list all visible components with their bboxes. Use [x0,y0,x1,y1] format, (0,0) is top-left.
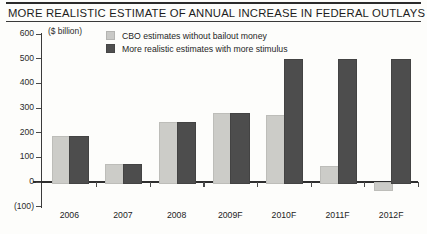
x-axis-label-2012F: 2012F [361,210,421,220]
x-axis-label-2006: 2006 [39,210,99,220]
chart-plot-area: ($ billion) (100)0100200300400500600 CBO… [0,0,427,234]
x-axis-tick [257,182,258,187]
x-axis-tick [203,182,204,187]
chart-page: MORE REALISTIC ESTIMATE OF ANNUAL INCREA… [0,0,427,234]
bar-2008-realistic [177,122,197,184]
x-axis-tick [418,182,419,187]
x-axis-label-2007: 2007 [93,210,153,220]
x-axis-tick [364,182,365,187]
x-axis-label-2009F: 2009F [200,210,260,220]
x-axis-label-2010F: 2010F [254,210,314,220]
x-axis-tick [96,182,97,187]
bar-2012F-realistic [391,59,411,184]
bar-2006-realistic [69,136,89,184]
x-axis-tick [311,182,312,187]
bar-series-container [0,0,427,234]
x-axis-tick [150,182,151,187]
bar-2010F-realistic [284,59,304,184]
bar-2007-realistic [123,164,143,185]
bar-2011F-realistic [338,59,358,184]
x-axis-label-2011F: 2011F [308,210,368,220]
bar-2009F-realistic [230,113,250,184]
x-axis-label-2008: 2008 [147,210,207,220]
